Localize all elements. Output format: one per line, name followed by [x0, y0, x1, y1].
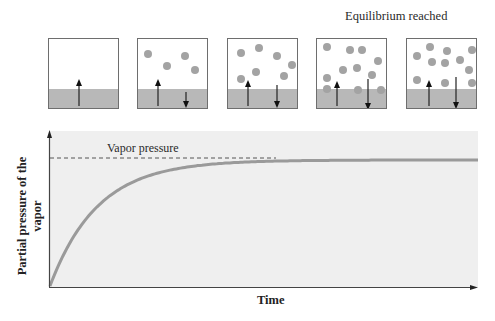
- x-axis-label: Time: [257, 293, 285, 308]
- y-axis-label: Partial pressure of the vapor: [15, 146, 45, 286]
- vapor-pressure-label: Vapor pressure: [107, 141, 179, 156]
- vapor-pressure-chart: [0, 0, 495, 321]
